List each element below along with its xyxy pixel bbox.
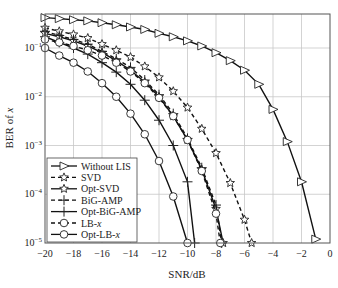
triangle-marker [55,15,64,23]
triangle-marker [155,29,164,37]
circle-marker [112,59,120,67]
circle-marker [70,59,78,67]
legend-label: BiG-AMP [81,195,123,206]
x-tick-label: −6 [239,248,250,259]
star-marker [226,179,235,187]
star-marker [198,124,207,132]
circle-marker [84,46,92,54]
x-tick-label: −8 [211,248,222,259]
plus-marker [183,177,193,187]
circle-marker [127,68,135,76]
circle-marker [55,52,63,60]
x-tick-label: 0 [328,248,333,259]
x-tick-labels: −20−18−16−14−12−10−8−6−4−20 [37,248,332,259]
circle-marker [60,219,68,227]
triangle-marker [312,235,321,243]
star-marker [141,62,150,70]
legend-label: Opt-BiG-AMP [81,206,141,217]
circle-marker [112,93,120,101]
legend-label: Without LIS [81,161,131,172]
circle-marker [198,167,206,175]
circle-marker [127,110,135,118]
x-tick-label: −12 [151,248,167,259]
triangle-marker [98,19,107,27]
circle-marker [141,130,149,138]
triangle-marker [141,25,150,33]
triangle-marker [198,42,207,50]
circle-marker [98,52,106,60]
y-tick-label: 10−3 [25,139,43,151]
circle-marker [60,231,68,239]
y-tick-label: 10−2 [25,90,43,102]
circle-marker [169,193,177,201]
circle-marker [169,112,177,120]
x-tick-label: −2 [296,248,307,259]
circle-marker [184,136,192,144]
y-tick-label: 10−5 [25,236,43,248]
circle-marker [55,39,63,47]
legend-label: Opt-SVD [81,183,119,194]
star-marker [212,149,221,157]
ber-chart: −20−18−16−14−12−10−8−6−4−20 10−110−210−3… [0,0,338,288]
star-marker [112,46,121,54]
circle-marker [70,42,78,50]
x-axis-label: SNR/dB [168,268,205,280]
circle-marker [212,210,220,218]
triangle-marker [169,33,178,41]
circle-marker [155,94,163,102]
triangle-marker [184,37,193,45]
y-tick-label: 10−4 [25,187,43,199]
plus-marker [168,141,178,151]
y-axis-label: BER of x [3,107,15,148]
x-tick-label: −16 [94,248,110,259]
triangle-marker [255,80,264,88]
legend-label: SVD [81,172,101,183]
x-tick-label: −14 [123,248,139,259]
triangle-marker [127,23,136,31]
legend: Without LISSVDOpt-SVDBiG-AMPOpt-BiG-AMPL… [47,158,141,242]
x-tick-label: −4 [268,248,279,259]
circle-marker [84,68,92,76]
triangle-marker [112,21,121,29]
y-tick-labels: 10−110−210−310−410−5 [25,41,43,248]
star-marker [240,215,249,223]
legend-label: Opt-LB-x [81,229,120,240]
circle-marker [141,79,149,87]
x-tick-label: −20 [37,248,53,259]
circle-marker [155,157,163,165]
y-tick-label: 10−1 [25,41,43,53]
x-tick-label: −18 [66,248,82,259]
triangle-marker [84,17,93,25]
x-tick-label: −10 [180,248,196,259]
circle-marker [98,79,106,87]
triangle-marker [70,16,79,24]
legend-label: LB-x [81,218,102,229]
plus-marker [154,115,164,125]
